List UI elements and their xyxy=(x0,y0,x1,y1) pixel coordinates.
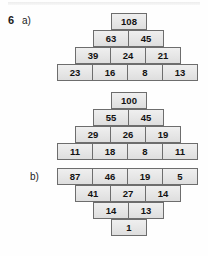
pyramid-a-cell-r3c2[interactable]: 24 xyxy=(110,47,146,64)
worksheet-page: 6 a) b) 108 63 45 39 24 21 23 16 8 13 10… xyxy=(0,0,208,256)
exercise-number: 6 xyxy=(8,14,14,26)
pyramid-a-cell-r3c3[interactable]: 21 xyxy=(145,47,181,64)
diamond-b-cell-r3c2[interactable]: 26 xyxy=(110,126,146,143)
diamond-b-row-3: 29 26 19 xyxy=(75,126,181,143)
pyramid-a-row-1: 108 xyxy=(111,13,147,30)
pyramid-a-cell-r2c2[interactable]: 45 xyxy=(128,30,164,47)
pyramid-a-cell-r4c3[interactable]: 8 xyxy=(127,64,163,81)
diamond-b-cell-r6c3[interactable]: 14 xyxy=(145,185,181,202)
pyramid-a-cell-r1c1[interactable]: 108 xyxy=(111,13,147,30)
diamond-b-cell-r7c1[interactable]: 14 xyxy=(93,202,129,219)
diamond-b-cell-r3c3[interactable]: 19 xyxy=(145,126,181,143)
diamond-b-cell-r2c1[interactable]: 55 xyxy=(93,109,129,126)
pyramid-a-row-4: 23 16 8 13 xyxy=(57,64,198,81)
diamond-b-row-6: 41 27 14 xyxy=(75,185,181,202)
pyramid-a-cell-r4c1[interactable]: 23 xyxy=(57,64,93,81)
diamond-b-cell-r5c3[interactable]: 19 xyxy=(127,168,163,185)
pyramid-a-row-3: 39 24 21 xyxy=(75,47,181,64)
diamond-b-cell-r5c2[interactable]: 46 xyxy=(92,168,128,185)
diamond-b-cell-r5c1[interactable]: 87 xyxy=(57,168,93,185)
diamond-b-row-8: 1 xyxy=(111,219,147,236)
diamond-b-cell-r4c2[interactable]: 18 xyxy=(92,143,128,160)
part-label-b: b) xyxy=(30,171,39,182)
diamond-b-cell-r8c1[interactable]: 1 xyxy=(111,219,147,236)
pyramid-a-cell-r2c1[interactable]: 63 xyxy=(93,30,129,47)
diamond-b-row-1: 100 xyxy=(111,92,147,109)
diamond-b-row-5: 87 46 19 5 xyxy=(57,168,198,185)
pyramid-a-cell-r3c1[interactable]: 39 xyxy=(75,47,111,64)
diamond-b-cell-r1c1[interactable]: 100 xyxy=(111,92,147,109)
diamond-b-cell-r7c2[interactable]: 13 xyxy=(128,202,164,219)
page-top-scan-artifact xyxy=(8,2,200,5)
diamond-b-cell-r4c3[interactable]: 8 xyxy=(127,143,163,160)
pyramid-a-row-2: 63 45 xyxy=(93,30,164,47)
pyramid-a-cell-r4c2[interactable]: 16 xyxy=(92,64,128,81)
part-label-a: a) xyxy=(22,15,31,26)
diamond-b-cell-r6c1[interactable]: 41 xyxy=(75,185,111,202)
diamond-b-cell-r2c2[interactable]: 45 xyxy=(128,109,164,126)
diamond-b-cell-r4c4[interactable]: 11 xyxy=(162,143,198,160)
diamond-b-row-7: 14 13 xyxy=(93,202,164,219)
diamond-b-cell-r6c2[interactable]: 27 xyxy=(110,185,146,202)
diamond-b-cell-r5c4[interactable]: 5 xyxy=(162,168,198,185)
diamond-b-cell-r3c1[interactable]: 29 xyxy=(75,126,111,143)
diamond-b-row-2: 55 45 xyxy=(93,109,164,126)
diamond-b-cell-r4c1[interactable]: 11 xyxy=(57,143,93,160)
pyramid-a-cell-r4c4[interactable]: 13 xyxy=(162,64,198,81)
diamond-b-row-4: 11 18 8 11 xyxy=(57,143,198,160)
